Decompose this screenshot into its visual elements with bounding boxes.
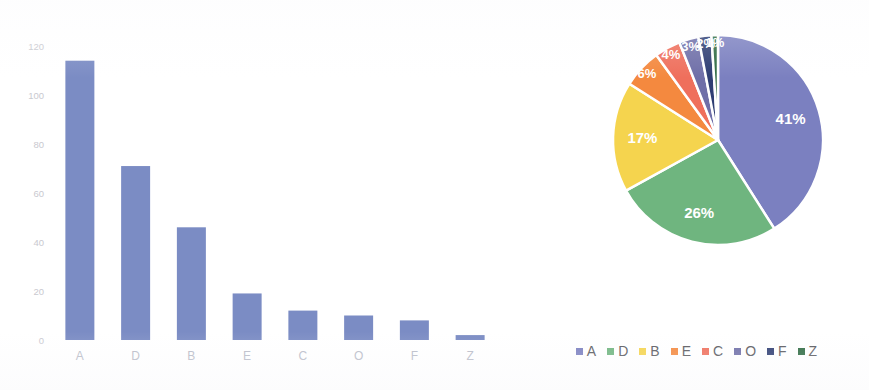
legend-swatch-icon: [798, 348, 805, 355]
bar-chart-bar[interactable]: [288, 311, 317, 340]
bar-chart-y-tick-label: 120: [28, 41, 44, 52]
pie-chart-legend-label: A: [587, 344, 596, 358]
pie-chart-slice-label: 1%: [706, 35, 725, 50]
pie-chart-legend-item[interactable]: D: [607, 344, 628, 358]
legend-swatch-icon: [702, 348, 709, 355]
bar-chart-x-tick-label: Z: [466, 349, 473, 363]
bar-chart-x-tick-label: E: [243, 349, 251, 363]
legend-swatch-icon: [767, 348, 774, 355]
legend-swatch-icon: [576, 348, 583, 355]
pie-chart-legend: ADBECOFZ: [524, 339, 869, 363]
pie-chart-slice-label: 26%: [684, 204, 714, 221]
bar-chart-bar[interactable]: [121, 166, 150, 340]
pie-chart-legend-item[interactable]: F: [767, 344, 787, 358]
pie-chart-slice-label: 6%: [637, 66, 656, 81]
bar-chart-bar[interactable]: [177, 227, 206, 340]
bar-chart-svg: 020406080100120 ADBECOFZ: [0, 0, 524, 390]
bar-chart-bar[interactable]: [233, 293, 262, 340]
bar-chart-bar[interactable]: [456, 335, 485, 340]
bar-chart-y-axis: 020406080100120: [28, 41, 44, 346]
pie-chart-legend-label: C: [713, 344, 723, 358]
pie-chart-legend-label: E: [682, 344, 691, 358]
bar-chart-bars: [65, 61, 484, 340]
legend-swatch-icon: [734, 348, 741, 355]
pie-chart-legend-item[interactable]: C: [702, 344, 723, 358]
bar-chart-bar[interactable]: [344, 316, 373, 341]
pie-chart-legend-label: Z: [809, 344, 818, 358]
bar-chart-panel: 020406080100120 ADBECOFZ: [0, 0, 524, 390]
pie-chart-slice-label: 41%: [776, 110, 806, 127]
pie-chart-legend-item[interactable]: B: [639, 344, 659, 358]
bar-chart-y-tick-label: 20: [33, 286, 44, 297]
bar-chart-y-tick-label: 40: [33, 237, 44, 248]
chart-page: 020406080100120 ADBECOFZ 41%26%17%6%4%3%…: [0, 0, 869, 390]
bar-chart-x-tick-label: C: [299, 349, 308, 363]
pie-chart-legend-label: B: [650, 344, 659, 358]
bar-chart-x-tick-label: A: [76, 349, 84, 363]
pie-chart-svg: 41%26%17%6%4%3%2%1%: [524, 0, 869, 390]
bar-chart-x-tick-label: B: [187, 349, 195, 363]
pie-chart-panel: 41%26%17%6%4%3%2%1%: [524, 0, 869, 390]
bar-chart-y-tick-label: 60: [33, 188, 44, 199]
bar-chart-x-tick-label: D: [131, 349, 140, 363]
bar-chart-y-tick-label: 100: [28, 90, 44, 101]
bar-chart-y-tick-label: 0: [39, 335, 44, 346]
pie-chart-legend-item[interactable]: Z: [798, 344, 818, 358]
pie-chart-legend-item[interactable]: A: [576, 344, 596, 358]
bar-chart-bar[interactable]: [65, 61, 94, 340]
pie-chart-legend-label: D: [618, 344, 628, 358]
legend-swatch-icon: [671, 348, 678, 355]
pie-chart-slice-label: 17%: [627, 129, 657, 146]
bar-chart-bar[interactable]: [400, 320, 429, 340]
bar-chart-x-tick-label: F: [411, 349, 418, 363]
pie-chart-legend-label: F: [778, 344, 787, 358]
bar-chart-y-tick-label: 80: [33, 139, 44, 150]
pie-chart-legend-item[interactable]: O: [734, 344, 756, 358]
bar-chart-x-tick-label: O: [354, 349, 363, 363]
pie-chart-legend-label: O: [745, 344, 756, 358]
legend-swatch-icon: [607, 348, 614, 355]
bar-chart-x-axis: ADBECOFZ: [76, 349, 474, 363]
pie-chart-slice-label: 4%: [662, 47, 681, 62]
legend-swatch-icon: [639, 348, 646, 355]
pie-chart-legend-item[interactable]: E: [671, 344, 691, 358]
